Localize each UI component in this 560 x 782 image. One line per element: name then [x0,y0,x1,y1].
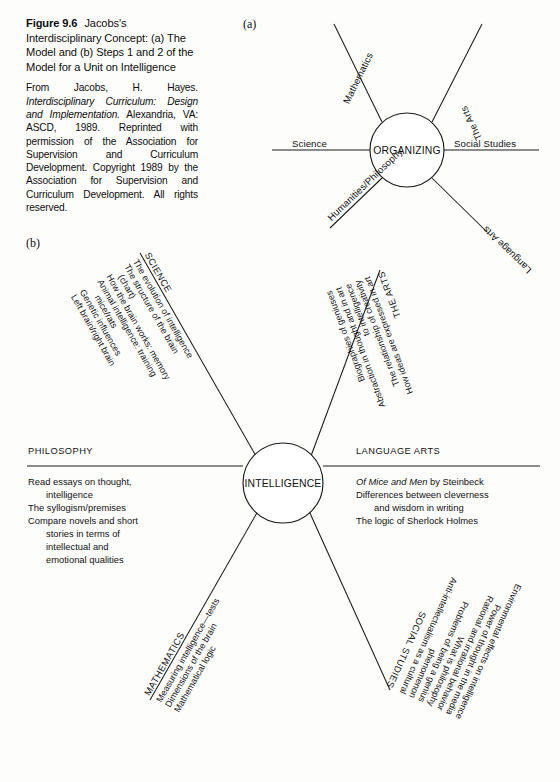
panel-b-branch-the-arts: THE ARTS How ideas are expressed in art … [324,269,430,412]
panel-b-branch-language-arts: LANGUAGE ARTS Of Mice and Men by Steinbe… [356,446,489,526]
panel-b-diagram: INTELLIGENCE SCIENCE The evolution of in… [0,0,560,782]
branch-heading-philosophy: PHILOSOPHY [28,446,93,456]
branch-item: stories in terms of [46,528,120,539]
branch-item: Read essays on thought, [28,476,132,487]
branch-item: emotional qualities [46,554,124,565]
panel-b-branch-social-studies: SOCIAL STUDIES Anti-intellectualism as a… [384,551,523,721]
italic-book-title: Of Mice and Men [356,476,427,487]
branch-item: Compare novels and short [28,515,138,526]
branch-item: and wisdom in writing [374,502,464,513]
branch-item: The logic of Sherlock Holmes [356,515,478,526]
figure-page: Figure 9.6Jacobs's Interdisciplinary Con… [0,0,560,782]
branch-item: intellectual and [46,541,109,552]
panel-b-branch-science: SCIENCE The evolution of intelligence Th… [69,251,211,402]
branch-heading-language-arts: LANGUAGE ARTS [356,446,440,456]
branch-item-language-arts-first: Of Mice and Men by Steinbeck [356,476,484,487]
panel-b-hub-label: INTELLIGENCE [245,478,322,489]
book-title-suffix: by Steinbeck [427,476,484,487]
panel-b-branch-line-social-studies [309,511,390,690]
panel-b-branch-mathematics: MATHEMATICS Measuring intelligence—tests… [143,589,240,714]
branch-item: intelligence [46,489,93,500]
branch-item: The syllogism/premises [28,502,126,513]
panel-b-branch-philosophy: PHILOSOPHY Read essays on thought, intel… [28,446,138,565]
branch-item: Differences between cleverness [356,489,489,500]
